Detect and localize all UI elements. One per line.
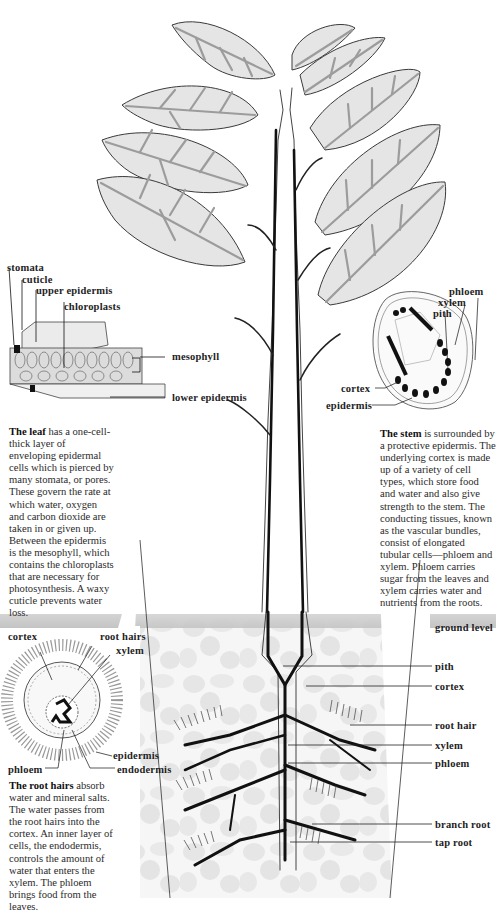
label-leaf-stomata: stomata — [7, 262, 44, 273]
label-roothair-epidermis: epidermis — [113, 750, 159, 761]
stem-caption-body: is surrounded by a protective epidermis.… — [380, 428, 496, 608]
label-stem-pith: pith — [433, 308, 452, 319]
label-root-xylem: xylem — [435, 740, 463, 751]
leaf-caption: The leaf has a one-cell-thick layer of e… — [9, 426, 115, 620]
label-leaf-mesophyll: mesophyll — [172, 351, 219, 362]
label-branch-root: branch root — [435, 819, 490, 830]
label-leaf-upper-epidermis: upper epidermis — [36, 285, 113, 296]
label-leaf-cuticle: cuticle — [22, 274, 53, 285]
stem-caption: The stem is surrounded by a protective e… — [380, 428, 496, 609]
label-leaf-chloroplasts: chloroplasts — [64, 301, 120, 312]
stem — [228, 88, 340, 612]
label-ground-level: ground level — [435, 622, 493, 633]
label-leaf-lower-epidermis: lower epidermis — [172, 392, 247, 403]
label-roothair-root-hairs: root hairs — [100, 631, 146, 642]
label-stem-phloem: phloem — [449, 286, 483, 297]
label-roothair-xylem: xylem — [116, 645, 144, 656]
roothair-caption-title: The root hairs — [9, 780, 74, 791]
stem-caption-title: The stem — [380, 428, 422, 439]
label-root-cortex: cortex — [435, 681, 464, 692]
label-roothair-endodermis: endodermis — [117, 764, 172, 775]
label-stem-xylem: xylem — [438, 297, 466, 308]
stem-cross-section — [372, 292, 478, 409]
label-root-pith: pith — [435, 661, 454, 672]
roothair-caption-body: absorb water and mineral salts. The wate… — [9, 780, 113, 912]
label-roothair-cortex: cortex — [8, 631, 37, 642]
label-tap-root: tap root — [435, 837, 472, 848]
label-root-phloem: phloem — [435, 758, 469, 769]
leaf-caption-body: has a one-cell-thick layer of enveloping… — [9, 426, 114, 618]
label-roothair-phloem: phloem — [8, 764, 42, 775]
leaves — [97, 22, 446, 305]
label-root-hair: root hair — [435, 720, 477, 731]
label-stem-epidermis: epidermis — [326, 400, 372, 411]
leaf-caption-title: The leaf — [9, 426, 46, 437]
roothair-caption: The root hairs absorb water and mineral … — [9, 780, 119, 913]
label-stem-cortex: cortex — [341, 383, 370, 394]
